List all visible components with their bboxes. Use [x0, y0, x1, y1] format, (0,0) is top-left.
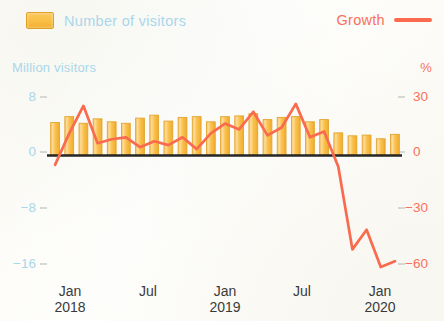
x-label-1-month: Jul — [139, 283, 157, 299]
x-label-0-month: Jan — [59, 283, 82, 299]
bar — [376, 139, 385, 155]
bar — [136, 118, 145, 155]
chart-figure: Number of visitors Growth Million visito… — [0, 0, 444, 321]
x-label-2-year: 2019 — [190, 300, 260, 316]
bar — [150, 115, 159, 155]
bar — [391, 134, 400, 155]
bar — [348, 136, 357, 155]
bar — [249, 114, 258, 155]
x-label-2: Jan 2019 — [190, 284, 260, 315]
x-label-0: Jan 2018 — [35, 284, 105, 315]
bar — [79, 123, 88, 155]
x-label-3: Jul — [267, 284, 337, 300]
plot-area — [0, 0, 444, 321]
x-label-4: Jan 2020 — [345, 284, 415, 315]
x-label-3-month: Jul — [293, 283, 311, 299]
x-label-4-year: 2020 — [345, 300, 415, 316]
x-label-2-month: Jan — [214, 283, 237, 299]
x-label-4-month: Jan — [369, 283, 392, 299]
bar — [291, 117, 300, 155]
bars-group — [51, 114, 400, 155]
x-label-0-year: 2018 — [35, 300, 105, 316]
bar — [263, 120, 272, 155]
bar — [51, 123, 60, 155]
x-label-1: Jul — [113, 284, 183, 300]
bar — [362, 135, 371, 155]
bar — [164, 121, 173, 155]
bar — [334, 133, 343, 155]
bar — [235, 116, 244, 155]
